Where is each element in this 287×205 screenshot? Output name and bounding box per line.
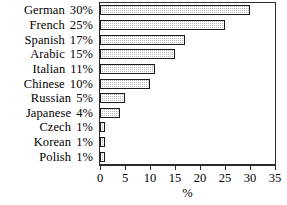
category-name: German: [24, 3, 65, 17]
category-value: 1%: [76, 120, 93, 134]
category-label-row: Spanish17%: [24, 33, 93, 47]
category-value: 11%: [70, 62, 93, 76]
category-label-column: German30%French25%Spanish17%Arabic15%Ita…: [0, 2, 93, 165]
category-label-row: Czech1%: [39, 120, 93, 134]
category-name: Spanish: [24, 33, 64, 47]
category-name: French: [29, 18, 64, 32]
category-value: 1%: [76, 135, 93, 149]
category-name: Chinese: [24, 77, 65, 91]
category-value: 15%: [70, 47, 93, 61]
bar: [100, 49, 175, 59]
x-axis-tick: [225, 166, 226, 170]
bar: [100, 93, 125, 103]
x-axis-tick: [150, 166, 151, 170]
bar: [100, 64, 155, 74]
category-name: Arabic: [30, 47, 65, 61]
category-label-row: Japanese4%: [26, 106, 93, 120]
category-label-row: Italian11%: [33, 62, 93, 76]
bar: [100, 20, 225, 30]
bar: [100, 5, 250, 15]
bar: [100, 79, 150, 89]
x-axis-title: %: [99, 186, 276, 200]
category-name: Italian: [33, 62, 66, 76]
category-label-row: German30%: [24, 3, 93, 17]
category-label-row: Polish1%: [39, 150, 93, 164]
bar: [100, 137, 105, 147]
category-name: Russian: [31, 91, 71, 105]
category-value: 17%: [70, 33, 93, 47]
x-axis-tick: [250, 166, 251, 170]
bars-layer: [100, 3, 275, 164]
category-label-row: Chinese10%: [24, 77, 93, 91]
category-name: Korean: [34, 135, 71, 149]
category-label-row: Arabic15%: [30, 47, 93, 61]
x-axis-tick: [275, 166, 276, 170]
category-label-row: French25%: [29, 18, 93, 32]
category-name: Czech: [39, 120, 71, 134]
category-value: 1%: [76, 150, 93, 164]
bar: [100, 152, 105, 162]
x-axis-tick-label: 35: [260, 171, 287, 185]
category-value: 25%: [70, 18, 93, 32]
category-name: Japanese: [26, 106, 71, 120]
bar: [100, 108, 120, 118]
x-axis-tick: [200, 166, 201, 170]
category-name: Polish: [39, 150, 71, 164]
x-axis-tick: [100, 166, 101, 170]
category-value: 10%: [70, 77, 93, 91]
category-label-row: Korean1%: [34, 135, 93, 149]
x-axis-tick: [175, 166, 176, 170]
x-axis-tick: [125, 166, 126, 170]
bar: [100, 35, 185, 45]
category-label-row: Russian5%: [31, 91, 93, 105]
bar-chart: German30%French25%Spanish17%Arabic15%Ita…: [0, 0, 287, 205]
category-value: 30%: [70, 3, 93, 17]
bar: [100, 122, 105, 132]
category-value: 4%: [76, 106, 93, 120]
category-value: 5%: [76, 91, 93, 105]
